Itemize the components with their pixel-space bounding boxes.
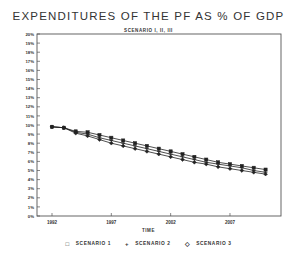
y-tick-label: 16% xyxy=(25,68,34,73)
y-tick-label: 19% xyxy=(25,41,34,46)
legend-label: SCENARIO 3 xyxy=(196,241,231,246)
y-tick-label: 7% xyxy=(28,150,34,155)
y-tick-label: 3% xyxy=(28,186,34,191)
x-axis-label: TIME xyxy=(0,228,297,233)
legend-label: SCENARIO 2 xyxy=(135,241,170,246)
legend-item-scenario-1: □ SCENARIO 1 xyxy=(66,240,112,247)
plus-marker-icon: + xyxy=(125,241,129,247)
x-tick-label: 1992 xyxy=(47,220,58,225)
y-tick-label: 14% xyxy=(25,86,34,91)
y-tick-label: 1% xyxy=(28,205,34,210)
legend-item-scenario-2: + SCENARIO 2 xyxy=(125,240,170,247)
legend-label: SCENARIO 1 xyxy=(76,241,111,246)
legend: □ SCENARIO 1 + SCENARIO 2 ◇ SCENARIO 3 xyxy=(0,240,297,247)
plot-area: 0%1%2%3%4%5%6%7%8%9%10%11%12%13%14%15%16… xyxy=(0,0,297,258)
x-tick-label: 2007 xyxy=(225,220,236,225)
y-tick-label: 13% xyxy=(25,95,34,100)
y-tick-label: 11% xyxy=(26,114,35,119)
y-tick-label: 15% xyxy=(25,77,34,82)
y-tick-label: 12% xyxy=(25,104,34,109)
diamond-marker-icon: ◇ xyxy=(185,240,191,247)
plot-frame xyxy=(37,34,281,216)
x-tick-label: 2002 xyxy=(166,220,177,225)
y-tick-label: 0% xyxy=(28,214,34,219)
square-marker-icon: □ xyxy=(66,241,70,247)
y-tick-label: 4% xyxy=(28,177,34,182)
legend-item-scenario-3: ◇ SCENARIO 3 xyxy=(185,240,232,247)
y-tick-label: 18% xyxy=(25,50,34,55)
y-tick-label: 20% xyxy=(25,32,34,37)
y-tick-label: 2% xyxy=(28,195,34,200)
y-tick-label: 6% xyxy=(28,159,34,164)
y-tick-label: 10% xyxy=(25,123,34,128)
y-tick-label: 8% xyxy=(28,141,34,146)
y-tick-label: 9% xyxy=(28,132,34,137)
y-tick-label: 5% xyxy=(28,168,34,173)
y-tick-label: 17% xyxy=(25,59,34,64)
x-tick-label: 1997 xyxy=(106,220,117,225)
